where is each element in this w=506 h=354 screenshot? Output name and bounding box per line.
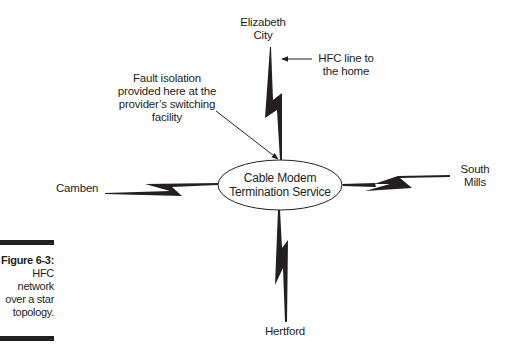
caption-line-3: over a star: [0, 293, 54, 306]
annotation-fault-isolation: Fault isolation provided here at the pro…: [110, 72, 224, 124]
node-south-mills: South Mills: [453, 163, 497, 189]
caption-bottom-rule: [0, 336, 54, 341]
annotation-fault-line-4: facility: [110, 111, 224, 124]
link-bottom-lightning-icon: [275, 210, 288, 322]
node-bottom-line-1: Hertford: [255, 325, 315, 338]
link-left-lightning-icon: [105, 183, 218, 196]
annotation-hfc-line-1: HFC line to: [312, 52, 380, 65]
node-right-line-1: South: [453, 163, 497, 176]
caption-line-4: topology.: [0, 306, 54, 319]
fault-isolation-arrow-icon: [216, 111, 278, 159]
hub-label: Cable Modem Termination Service: [218, 171, 342, 199]
annotation-hfc-line: HFC line to the home: [312, 52, 380, 78]
annotation-hfc-line-2: the home: [312, 65, 380, 78]
caption-top-rule: [0, 240, 54, 245]
node-right-line-2: Mills: [453, 176, 497, 189]
caption-line-1: HFC: [0, 267, 54, 280]
annotation-fault-line-2: provided here at the: [110, 85, 224, 98]
figure-caption: Figure 6-3: HFC network over a star topo…: [0, 240, 54, 340]
node-left-line-1: Camben: [56, 182, 106, 195]
node-camben: Camben: [56, 182, 106, 195]
node-top-line-1: Elizabeth: [228, 16, 298, 29]
annotation-fault-line-3: provider’s switching: [110, 98, 224, 111]
hub-label-line-1: Cable Modem: [218, 171, 342, 185]
node-top-line-2: City: [228, 29, 298, 42]
link-right-lightning-icon: [342, 175, 450, 191]
figure-number: Figure 6-3:: [0, 254, 54, 267]
node-hertford: Hertford: [255, 325, 315, 338]
caption-line-2: network: [0, 280, 54, 293]
node-elizabeth-city: Elizabeth City: [228, 16, 298, 42]
annotation-fault-line-1: Fault isolation: [110, 72, 224, 85]
hub-label-line-2: Termination Service: [218, 185, 342, 199]
link-top-lightning-icon: [265, 47, 282, 160]
